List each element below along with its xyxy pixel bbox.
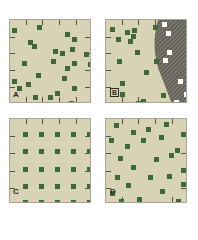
tick — [42, 20, 43, 25]
panel-label: C — [13, 188, 19, 196]
white-dot — [163, 58, 168, 63]
plant-dot — [72, 61, 77, 66]
white-dot — [166, 31, 171, 36]
panel-label: A — [13, 91, 19, 99]
white-dot — [167, 50, 172, 55]
plant-dot — [62, 76, 67, 81]
plant-dot — [71, 149, 76, 154]
plant-dot — [70, 47, 75, 52]
plant-dot — [87, 149, 91, 154]
plant-dot — [167, 174, 172, 179]
tick — [122, 97, 123, 102]
plant-dot — [175, 148, 180, 153]
plant-dot — [119, 199, 124, 203]
plant-dot — [55, 184, 60, 189]
plant-dot — [37, 25, 42, 30]
plant-dot — [55, 167, 60, 172]
plant-dot — [33, 95, 38, 100]
plant-dot — [88, 62, 91, 67]
plant-dot — [71, 132, 76, 137]
plant-dot — [72, 86, 77, 91]
tick — [172, 119, 173, 124]
plant-dot — [65, 66, 70, 71]
tick — [172, 197, 173, 202]
plant-dot — [55, 200, 60, 203]
tick — [181, 153, 186, 154]
plant-dot — [39, 167, 44, 172]
tick — [26, 20, 27, 25]
tick — [106, 37, 111, 38]
plant-dot — [144, 70, 149, 75]
plant-dot — [48, 95, 53, 100]
tick — [138, 20, 139, 25]
panel-c: C — [9, 118, 91, 203]
plant-dot — [161, 93, 166, 98]
plant-dot — [120, 92, 125, 97]
plant-dot — [136, 101, 141, 103]
plant-dot — [120, 81, 125, 86]
plant-dot — [110, 27, 115, 32]
tick — [85, 87, 90, 88]
plant-dot — [125, 30, 130, 35]
plant-dot — [39, 184, 44, 189]
plant-dot — [55, 91, 60, 96]
tick — [122, 20, 123, 25]
plant-dot — [141, 138, 146, 143]
tick — [106, 171, 111, 172]
plant-dot — [39, 132, 44, 137]
plant-dot — [23, 200, 28, 203]
tick — [106, 70, 111, 71]
plant-dot — [23, 149, 28, 154]
plant-dot — [126, 183, 131, 188]
tick — [76, 97, 77, 102]
white-dot — [184, 92, 187, 97]
tick — [155, 119, 156, 124]
plant-dot — [71, 184, 76, 189]
plant-dot — [164, 122, 169, 127]
plant-dot — [32, 44, 37, 49]
tick — [59, 97, 60, 102]
tick — [106, 153, 111, 154]
plant-dot — [114, 123, 119, 128]
plant-dot — [12, 28, 17, 33]
tick — [85, 37, 90, 38]
plant-dot — [176, 199, 181, 203]
plant-dot — [51, 59, 56, 64]
tick — [59, 20, 60, 25]
tick — [10, 37, 15, 38]
plant-dot — [71, 200, 76, 203]
tick — [10, 136, 15, 137]
white-dot — [162, 22, 167, 27]
tick — [10, 53, 15, 54]
plant-dot — [72, 37, 77, 42]
tick — [85, 70, 90, 71]
tick — [181, 188, 186, 189]
plant-dot — [125, 144, 130, 149]
plant-dot — [141, 99, 146, 103]
plant-dot — [118, 156, 123, 161]
tick — [59, 119, 60, 124]
plant-dot — [39, 149, 44, 154]
plant-dot — [181, 132, 186, 137]
tick — [10, 153, 15, 154]
plant-dot — [154, 157, 159, 162]
plant-dot — [87, 132, 91, 137]
plant-dot — [36, 73, 41, 78]
tick — [106, 53, 111, 54]
plant-dot — [71, 167, 76, 172]
plant-dot — [55, 132, 60, 137]
plant-dot — [69, 101, 74, 103]
plant-dot — [87, 167, 91, 172]
plant-dot — [65, 32, 70, 37]
plant-dot — [87, 184, 91, 189]
plant-dot — [26, 82, 31, 87]
plant-dot — [60, 51, 65, 56]
tick — [122, 119, 123, 124]
plant-dot — [181, 168, 186, 173]
tick — [10, 87, 15, 88]
panel-label: D — [110, 188, 116, 196]
tick — [42, 97, 43, 102]
plant-dot — [135, 50, 140, 55]
plant-dot — [53, 49, 58, 54]
plant-dot — [181, 182, 186, 187]
